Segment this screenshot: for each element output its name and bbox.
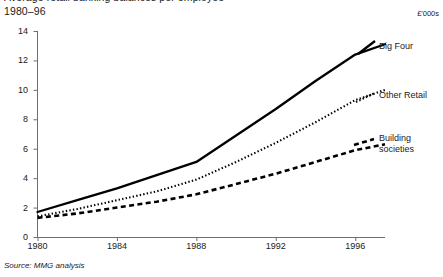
x-tick-label-1984: 1984 bbox=[95, 241, 139, 251]
y-tick-label-2: 2 bbox=[6, 203, 28, 213]
y-tick-label-12: 12 bbox=[6, 55, 28, 65]
x-tick-label-1988: 1988 bbox=[174, 241, 218, 251]
legend-item-big-four: Big Four bbox=[379, 41, 413, 52]
legend-label-big-four: Big Four bbox=[379, 41, 413, 51]
legend-label-other-retail: Other Retail bbox=[379, 90, 427, 100]
chart-svg bbox=[0, 0, 443, 277]
y-tick-label-8: 8 bbox=[6, 114, 28, 124]
legend-sample-other-retail bbox=[356, 93, 375, 102]
chart-axes bbox=[37, 31, 385, 238]
chart-plot-area: 02468101214 19801984198819921996 bbox=[0, 0, 443, 277]
legend-line-samples bbox=[354, 41, 375, 145]
legend-label-building-societies-line2: societies bbox=[379, 144, 414, 155]
legend-item-other-retail: Other Retail bbox=[379, 90, 427, 101]
chart-series-group bbox=[38, 44, 386, 218]
y-tick-marks bbox=[34, 32, 38, 238]
legend-sample-building-societies bbox=[354, 139, 374, 145]
y-tick-label-14: 14 bbox=[6, 26, 28, 36]
y-tick-label-10: 10 bbox=[6, 85, 28, 95]
y-tick-label-4: 4 bbox=[6, 173, 28, 183]
series-line-building-societies bbox=[38, 144, 386, 218]
source-note: Source: MMG analysis bbox=[4, 261, 84, 270]
x-tick-label-1980: 1980 bbox=[16, 241, 60, 251]
x-tick-label-1996: 1996 bbox=[333, 241, 377, 251]
series-line-big-four bbox=[38, 44, 386, 212]
y-tick-label-6: 6 bbox=[6, 144, 28, 154]
legend-label-building-societies-line1: Building bbox=[379, 133, 414, 144]
legend-item-building-societies: Building societies bbox=[379, 133, 414, 155]
x-tick-label-1992: 1992 bbox=[254, 241, 298, 251]
